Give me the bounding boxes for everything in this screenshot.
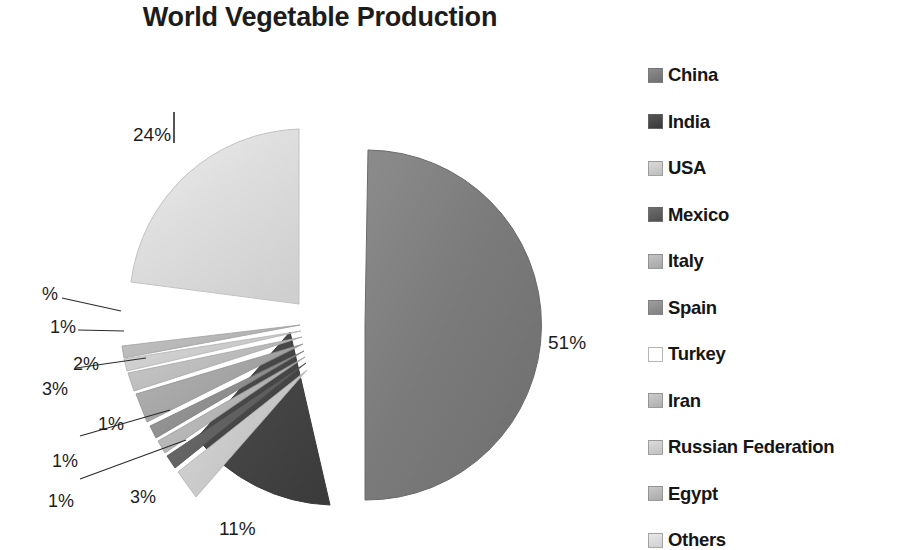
legend-label-china: China [668,64,718,86]
legend-label-india: India [668,111,710,133]
legend-item-usa[interactable]: USA [648,145,903,192]
data-label-mexico: 1% [48,492,74,510]
data-label-iran: 2% [73,355,99,373]
pie-chart-plot-area: 51% 24% 11% % 1% 2% 3% 1% 1% 1% 3% [0,40,640,550]
legend-item-russian-federation[interactable]: Russian Federation [648,424,903,471]
pie-slice-china[interactable] [365,150,542,500]
data-label-russian-federation: 1% [50,318,76,336]
legend-swatch-turkey [648,347,663,362]
data-label-usa: 3% [130,488,156,506]
data-label-italy: 1% [52,452,78,470]
legend-item-others[interactable]: Others [648,517,903,550]
data-label-egypt: % [42,285,58,303]
leader-line-egypt [62,298,121,311]
legend-item-iran[interactable]: Iran [648,378,903,425]
legend-swatch-egypt [648,486,663,501]
data-label-india: 11% [219,519,256,538]
chart-title: World Vegetable Production [0,2,640,33]
legend-swatch-italy [648,254,663,269]
pie-slice-others[interactable] [131,129,299,304]
legend-label-mexico: Mexico [668,204,729,226]
legend-item-egypt[interactable]: Egypt [648,471,903,518]
leader-line-russian-federation [78,330,124,331]
legend-swatch-iran [648,393,663,408]
legend-label-egypt: Egypt [668,483,718,505]
legend-label-usa: USA [668,157,706,179]
legend-label-iran: Iran [668,390,701,412]
chart-legend: China India USA Mexico Italy Spain Turke… [648,52,903,550]
legend-item-turkey[interactable]: Turkey [648,331,903,378]
legend-item-italy[interactable]: Italy [648,238,903,285]
legend-label-russian-federation: Russian Federation [668,436,834,458]
legend-swatch-others [648,533,663,548]
pie-chart-svg [0,40,640,550]
legend-label-spain: Spain [668,297,717,319]
legend-swatch-mexico [648,207,663,222]
legend-item-mexico[interactable]: Mexico [648,192,903,239]
legend-item-spain[interactable]: Spain [648,285,903,332]
legend-swatch-spain [648,300,663,315]
data-label-china: 51% [548,333,586,352]
legend-label-others: Others [668,529,726,550]
legend-item-india[interactable]: India [648,99,903,146]
data-label-turkey: 3% [42,380,68,398]
data-label-spain: 1% [98,415,124,433]
legend-label-turkey: Turkey [668,343,726,365]
legend-label-italy: Italy [668,250,704,272]
legend-item-china[interactable]: China [648,52,903,99]
legend-swatch-india [648,114,663,129]
legend-swatch-russian-federation [648,440,663,455]
legend-swatch-china [648,68,663,83]
legend-swatch-usa [648,161,663,176]
data-label-others: 24% [133,125,171,144]
